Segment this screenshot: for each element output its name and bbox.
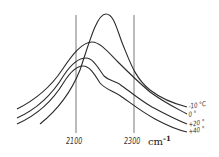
unit-exponent: -1	[163, 134, 171, 143]
x-axis-unit: cm-1	[148, 134, 171, 147]
unit-base: cm	[148, 136, 163, 147]
x-tick-2300: 2300	[124, 137, 140, 146]
x-tick-2100: 2100	[66, 137, 82, 146]
legend-0: 0 °	[188, 110, 197, 119]
curve-0	[17, 42, 187, 114]
curve-plus20	[17, 58, 187, 124]
spectrum-chart	[0, 0, 219, 157]
